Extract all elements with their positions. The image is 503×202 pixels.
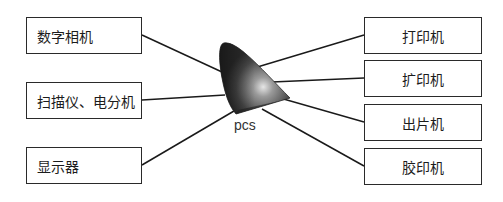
color-management-diagram: pcs 数字相机 扫描仪、电分机 显示器 打印机 扩印机 出片机 胶印机 xyxy=(0,0,503,202)
input-label: 显示器 xyxy=(37,156,79,176)
output-label: 出片机 xyxy=(402,113,444,133)
output-box-photo-printer: 扩印机 xyxy=(364,60,482,97)
line-output-2 xyxy=(272,78,364,82)
output-box-imagesetter: 出片机 xyxy=(364,104,482,141)
input-box-display: 显示器 xyxy=(26,147,142,184)
output-label: 扩印机 xyxy=(402,69,444,89)
input-label: 扫描仪、电分机 xyxy=(37,91,135,111)
line-input-1 xyxy=(142,35,222,72)
pcs-gamut-icon xyxy=(220,43,290,114)
output-box-printer: 打印机 xyxy=(364,17,482,54)
line-input-3 xyxy=(142,111,234,165)
line-output-3 xyxy=(280,98,364,122)
pcs-label: pcs xyxy=(234,117,256,133)
line-output-1 xyxy=(254,35,364,68)
output-label: 打印机 xyxy=(402,26,444,46)
input-box-digital-camera: 数字相机 xyxy=(26,17,142,54)
output-box-offset-press: 胶印机 xyxy=(364,148,482,185)
input-label: 数字相机 xyxy=(37,26,93,46)
line-input-2 xyxy=(142,95,225,100)
input-box-scanner: 扫描仪、电分机 xyxy=(26,82,142,119)
output-label: 胶印机 xyxy=(402,157,444,177)
